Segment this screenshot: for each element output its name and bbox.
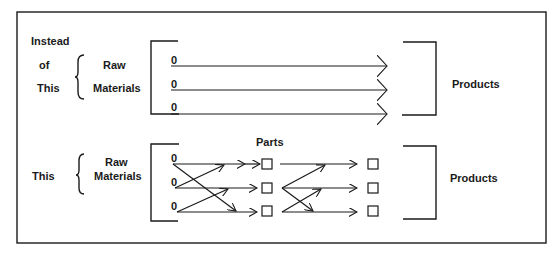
cross-arrow — [282, 188, 313, 211]
curly-brace-icon — [76, 154, 84, 194]
cross-arrow — [282, 165, 325, 188]
assembly-square — [368, 206, 378, 216]
part-square — [262, 183, 272, 193]
part-square — [262, 206, 272, 216]
cross-arrow — [175, 165, 224, 188]
curly-brace-icon — [75, 55, 84, 99]
cross-arrow — [177, 189, 228, 212]
raw-label-bottom: Raw — [105, 156, 128, 168]
input-zero: 0 — [171, 176, 177, 188]
input-zero: 0 — [171, 101, 177, 113]
of-label: of — [39, 59, 50, 71]
input-zero: 0 — [171, 78, 177, 90]
part-square — [262, 159, 272, 169]
products-label-top: Products — [452, 78, 500, 90]
products-bracket-bottom — [403, 146, 436, 219]
outer-frame — [17, 12, 546, 243]
top-section: Instead of This Raw Materials 0 0 0 Prod… — [31, 35, 500, 115]
parts-label: Parts — [256, 136, 284, 148]
input-zero: 0 — [171, 54, 177, 66]
products-label-bottom: Products — [450, 172, 498, 184]
bottom-section: This Raw Materials 0 0 0 Parts — [32, 136, 498, 221]
raw-label-top: Raw — [103, 59, 126, 71]
this-label-top: This — [37, 82, 60, 94]
assembly-square — [368, 159, 378, 169]
input-zero: 0 — [171, 200, 177, 212]
products-bracket-top — [402, 42, 436, 115]
materials-label-top: Materials — [93, 82, 141, 94]
input-zero: 0 — [171, 152, 177, 164]
this-label-bottom: This — [32, 170, 55, 182]
assembly-square — [368, 183, 378, 193]
raw-materials-to-products-diagram: Instead of This Raw Materials 0 0 0 Prod… — [0, 0, 560, 260]
materials-label-bottom: Materials — [94, 170, 142, 182]
instead-label: Instead — [31, 35, 70, 47]
